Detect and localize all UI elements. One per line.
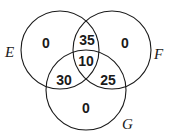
region-e-and-f: 35 [79, 32, 95, 48]
region-f-and-g: 25 [100, 72, 116, 88]
set-label-e: E [4, 44, 14, 60]
venn-diagram: E F G 0 35 0 10 30 25 0 [0, 0, 173, 137]
region-g-only: 0 [82, 100, 90, 116]
region-e-and-g: 30 [56, 72, 72, 88]
region-f-only: 0 [121, 35, 129, 51]
region-e-f-g: 10 [78, 53, 94, 69]
set-label-f: F [153, 46, 164, 62]
venn-svg: E F G 0 35 0 10 30 25 0 [0, 0, 173, 137]
region-e-only: 0 [42, 35, 50, 51]
set-label-g: G [122, 116, 133, 132]
